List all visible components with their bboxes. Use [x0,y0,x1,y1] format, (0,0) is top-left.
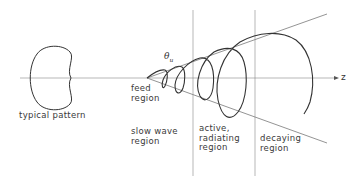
region-label-decaying: decaying region [260,134,301,153]
region-label-slow-wave: slow wave region [131,127,178,146]
helical-antenna-diagram [0,0,362,181]
z-axis-arrow-icon [334,76,339,80]
theta-subscript: u [169,56,173,63]
region-label-active: active, radiating region [199,124,240,153]
helix-spiral [147,33,313,117]
z-axis-label: z [341,72,346,82]
cone-upper-line [147,14,327,78]
region-label-feed: feed region [131,84,160,103]
pattern-label: typical pattern [19,111,86,121]
cone-angle-label: θu [164,51,173,63]
